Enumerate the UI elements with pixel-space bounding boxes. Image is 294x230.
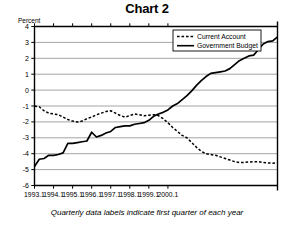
- x-tick-label: 1999.1: [138, 191, 159, 198]
- y-tick-label: 2: [25, 55, 29, 62]
- y-tick-label: 1: [25, 71, 29, 78]
- legend-label-1: Current Account: [197, 33, 246, 40]
- chart-footnote: Quarterly data labels indicate first qua…: [0, 208, 294, 217]
- series-line-2: [35, 37, 278, 167]
- y-tick-label: 3: [25, 39, 29, 46]
- x-tick-labels: 1993.11994.11995.11996.11997.11998.11999…: [24, 191, 178, 198]
- y-tick-label: -3: [23, 134, 29, 141]
- x-tick-label: 2000.1: [158, 191, 179, 198]
- y-tick-label: -4: [23, 150, 29, 157]
- y-tick-label: 0: [25, 87, 29, 94]
- chart-legend: Current AccountGovernment Budget: [173, 30, 261, 51]
- x-tick-label: 1997.1: [100, 191, 121, 198]
- y-tick-label: -2: [23, 118, 29, 125]
- x-tick-label: 1998.1: [119, 191, 140, 198]
- y-tick-label: -1: [23, 103, 29, 110]
- y-tick-label: 4: [25, 23, 29, 30]
- x-tick-label: 1994.1: [43, 191, 64, 198]
- y-tick-labels: 43210-1-2-3-4-5-6: [23, 23, 29, 189]
- data-series-layer: [35, 37, 278, 167]
- gridlines: [35, 42, 278, 169]
- chart-figure: Chart 2 Percent 43210-1-2-3-4-5-6 1993.1…: [0, 0, 294, 230]
- x-tick-label: 1995.1: [62, 191, 83, 198]
- x-tick-label: 1996.1: [81, 191, 102, 198]
- legend-label-2: Government Budget: [197, 42, 258, 50]
- y-tick-label: -6: [23, 182, 29, 189]
- x-tick-label: 1993.1: [24, 191, 45, 198]
- y-tick-label: -5: [23, 166, 29, 173]
- chart-plot-area: 43210-1-2-3-4-5-6 1993.11994.11995.11996…: [0, 0, 294, 230]
